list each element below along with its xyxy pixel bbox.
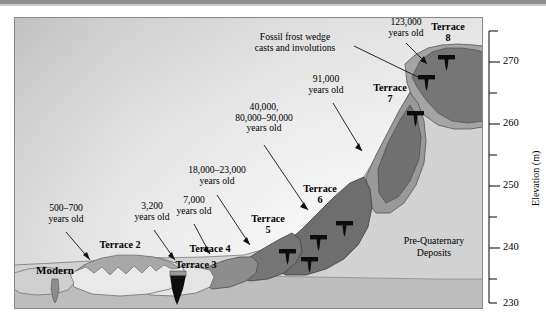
ice-wedge-cast-hatch-cap bbox=[170, 271, 186, 276]
annotation-7000: 7,000 years old bbox=[156, 195, 232, 216]
unit-label-prequaternary-line2: Deposits bbox=[386, 247, 482, 259]
axis-tick-label-270: 270 bbox=[503, 55, 519, 66]
annotation-7000-line2: years old bbox=[156, 206, 232, 217]
unit-label-terrace-3: Terrace 3 bbox=[162, 259, 230, 270]
unit-label-terrace-6-number: 6 bbox=[292, 194, 348, 205]
annotation-91000-line2: years old bbox=[286, 85, 366, 96]
annotation-40000-90000-line3: years old bbox=[196, 123, 332, 134]
annotation-18000-23000: 18,000–23,000 years old bbox=[154, 165, 280, 186]
elevation-axis-title: Elevation (m) bbox=[516, 118, 532, 208]
annotation-500-700: 500–700 years old bbox=[24, 203, 108, 224]
elevation-axis-title-text: Elevation (m) bbox=[530, 151, 541, 206]
unit-label-terrace-5-number: 5 bbox=[240, 224, 296, 235]
unit-label-terrace-7: Terrace 7 bbox=[362, 82, 418, 105]
unit-label-terrace-8-word: Terrace bbox=[420, 21, 476, 32]
unit-label-terrace-6-word: Terrace bbox=[292, 183, 348, 194]
annotation-500-700-line2: years old bbox=[24, 214, 108, 225]
figure-root: 500–700 years old 3,200 years old 7,000 … bbox=[0, 0, 546, 320]
annotation-fossil-frost-wedge: Fossil frost wedge casts and involutions bbox=[230, 32, 360, 53]
axis-tick-label-230: 230 bbox=[503, 297, 519, 308]
elevation-axis: 270 260 250 240 230 bbox=[483, 17, 513, 309]
unit-label-terrace-5: Terrace 5 bbox=[240, 213, 296, 236]
top-scan-band-secondary bbox=[0, 4, 546, 6]
unit-label-terrace-8-number: 8 bbox=[420, 32, 476, 43]
axis-tick-group bbox=[489, 31, 500, 303]
cross-section-panel: 500–700 years old 3,200 years old 7,000 … bbox=[14, 17, 483, 309]
unit-label-prequaternary: Pre-Quaternary Deposits bbox=[386, 235, 482, 258]
unit-label-terrace-5-word: Terrace bbox=[240, 213, 296, 224]
annotation-40000-90000: 40,000, 80,000–90,000 years old bbox=[196, 102, 332, 134]
annotation-91000: 91,000 years old bbox=[286, 74, 366, 95]
axis-tick-label-240: 240 bbox=[503, 241, 519, 252]
unit-label-terrace-6: Terrace 6 bbox=[292, 183, 348, 206]
unit-label-modern: Modern bbox=[24, 264, 86, 276]
unit-label-terrace-7-number: 7 bbox=[362, 93, 418, 104]
unit-label-terrace-8: Terrace 8 bbox=[420, 21, 476, 44]
annotation-18000-23000-line2: years old bbox=[154, 176, 280, 187]
unit-label-prequaternary-line1: Pre-Quaternary bbox=[386, 235, 482, 247]
annotation-fossil-frost-wedge-line2: casts and involutions bbox=[230, 43, 360, 54]
unit-label-terrace-7-word: Terrace bbox=[362, 82, 418, 93]
unit-label-terrace-2: Terrace 2 bbox=[86, 239, 154, 250]
unit-label-terrace-4: Terrace 4 bbox=[176, 243, 244, 254]
